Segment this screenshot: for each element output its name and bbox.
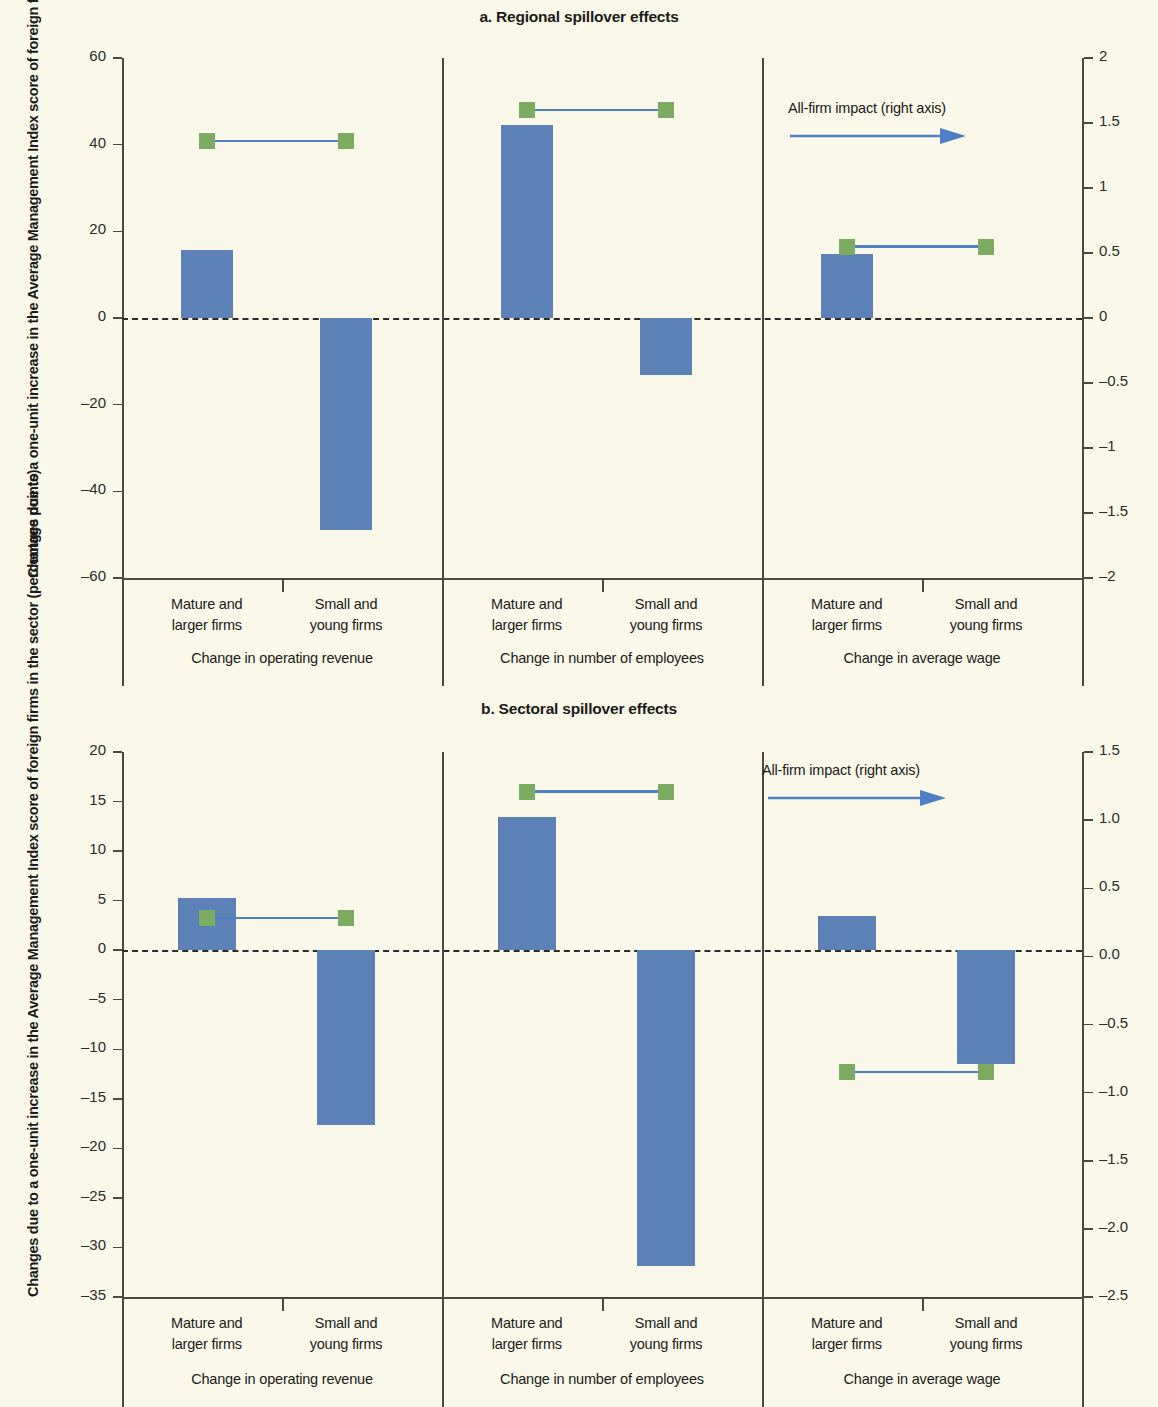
right-axis-tick-label: 0.5 [1099,877,1158,894]
right-axis-tick [1084,1296,1093,1298]
category-divider-tick [922,1297,924,1311]
all-firm-impact-marker [658,784,674,800]
category-label-line2: larger firms [127,1334,287,1355]
category-label-line1: Small and [266,1313,426,1334]
right-axis-tick-label: 0 [1099,307,1158,324]
left-axis-tick-label: 20 [52,741,106,758]
right-axis-tick-label: –1 [1099,437,1158,454]
all-firm-impact-marker [519,102,535,118]
left-axis-tick-label: –15 [52,1088,106,1105]
left-axis-tick [113,1197,122,1199]
left-axis-tick [113,1148,122,1150]
category-label: Mature andlarger firms [447,1313,607,1355]
all-firm-impact-marker [839,239,855,255]
group-label: Change in average wage [762,650,1082,666]
bar [818,916,876,951]
category-divider-tick [922,578,924,592]
right-axis-tick [1084,382,1093,384]
category-label-line1: Small and [266,594,426,615]
category-label-line1: Mature and [447,594,607,615]
all-firm-impact-arrow-icon [790,122,966,150]
left-axis-tick [113,850,122,852]
right-axis-tick-label: –0.5 [1099,372,1158,389]
bar [957,950,1015,1064]
left-axis-tick [113,949,122,951]
category-label-line1: Mature and [767,1313,927,1334]
category-label-line1: Mature and [767,594,927,615]
category-label-line1: Mature and [447,1313,607,1334]
left-axis-tick-label: 40 [52,134,106,151]
category-divider-tick [282,1297,284,1311]
bar [501,125,553,318]
group-separator-below [1082,578,1084,686]
category-label-line1: Mature and [127,1313,287,1334]
group-separator-below [762,578,764,686]
all-firm-impact-connector [527,790,666,793]
right-axis-tick-label: –1.0 [1099,1082,1158,1099]
all-firm-impact-connector [527,109,666,112]
group-separator [442,752,444,1297]
all-firm-impact-marker [199,133,215,149]
right-axis-tick-label: –2.0 [1099,1218,1158,1235]
right-axis-tick [1084,512,1093,514]
category-label: Mature andlarger firms [767,594,927,636]
zero-reference-line [122,950,1082,952]
group-separator-below [122,1297,124,1407]
group-label: Change in average wage [762,1371,1082,1387]
left-axis-tick-label: –5 [52,989,106,1006]
all-firm-impact-connector [207,917,346,920]
left-axis-tick [113,751,122,753]
all-firm-impact-connector [847,245,986,248]
right-axis-tick [1084,819,1093,821]
category-label-line2: larger firms [447,1334,607,1355]
category-label-line1: Small and [586,1313,746,1334]
right-axis-tick [1084,447,1093,449]
category-label: Small andyoung firms [586,594,746,636]
all-firm-impact-marker [338,133,354,149]
all-firm-impact-connector [207,140,346,143]
left-axis-spine [122,752,124,1297]
right-axis-tick [1084,577,1093,579]
right-axis-tick-label: –1.5 [1099,1150,1158,1167]
left-axis-tick-label: 20 [52,220,106,237]
category-label-line1: Small and [586,594,746,615]
all-firm-impact-annotation-text: All-firm impact (right axis) [762,762,920,778]
category-label-line2: larger firms [767,1334,927,1355]
all-firm-impact-marker [839,1064,855,1080]
left-axis-tick [113,491,122,493]
bar [181,250,233,318]
right-axis-tick [1084,317,1093,319]
category-label-line1: Small and [906,594,1066,615]
category-label: Mature andlarger firms [127,1313,287,1355]
left-axis-tick [113,801,122,803]
bar [320,318,372,530]
bar [498,817,556,950]
right-axis-tick [1084,252,1093,254]
right-axis-tick-label: 2 [1099,47,1158,64]
all-firm-impact-connector [847,1071,986,1074]
group-label: Change in operating revenue [122,1371,442,1387]
left-axis-tick [113,57,122,59]
left-axis-tick-label: 60 [52,47,106,64]
left-axis-tick [113,317,122,319]
left-axis-tick [113,1247,122,1249]
right-axis-tick-label: 0.0 [1099,945,1158,962]
category-divider-tick [282,578,284,592]
category-label: Small andyoung firms [266,594,426,636]
right-axis-tick-label: –1.5 [1099,502,1158,519]
category-label-line2: young firms [266,1334,426,1355]
right-axis-tick [1084,57,1093,59]
right-axis-tick [1084,956,1093,958]
left-axis-tick-label: –35 [52,1286,106,1303]
all-firm-impact-marker [658,102,674,118]
right-axis-tick [1084,122,1093,124]
bar [821,254,873,318]
right-axis-tick [1084,187,1093,189]
left-axis-tick-label: –10 [52,1038,106,1055]
right-axis-tick-label: –2 [1099,567,1158,584]
category-label: Mature andlarger firms [447,594,607,636]
category-label: Mature andlarger firms [767,1313,927,1355]
category-label: Small andyoung firms [906,594,1066,636]
right-axis-tick [1084,1092,1093,1094]
left-axis-tick-label: –20 [52,394,106,411]
